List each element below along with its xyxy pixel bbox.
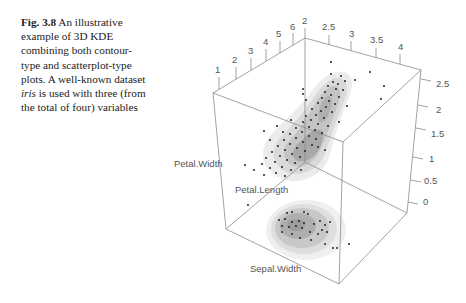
svg-text:0.5: 0.5 [424, 175, 437, 186]
axis-label-sepal-width: Sepal.Width [250, 263, 301, 274]
svg-text:1: 1 [215, 64, 220, 75]
svg-text:6: 6 [290, 21, 295, 32]
axis-sepal-width-labels: 2 2.5 3 3.5 4 [302, 15, 403, 52]
axis-label-petal-length: Petal.Length [235, 184, 288, 195]
svg-text:3: 3 [349, 28, 354, 39]
axis-petal-length-ticks [219, 33, 293, 89]
svg-text:1: 1 [429, 153, 434, 164]
svg-text:3: 3 [248, 45, 253, 56]
svg-text:2.5: 2.5 [322, 21, 335, 32]
svg-text:5: 5 [276, 28, 281, 39]
svg-text:4: 4 [398, 41, 403, 52]
svg-text:2.5: 2.5 [436, 78, 449, 89]
svg-text:1.5: 1.5 [431, 128, 444, 139]
svg-text:2: 2 [232, 54, 237, 65]
axis-label-petal-width: Petal.Width [174, 158, 223, 169]
kde-3d-plot: 1 2 3 4 5 6 2 2.5 3 3.5 4 2.5 2 1.5 1 0.… [0, 0, 466, 303]
kde-lower-cluster [266, 200, 346, 260]
axis-petal-width-labels: 2.5 2 1.5 1 0.5 0 [423, 78, 449, 207]
svg-text:2: 2 [302, 15, 307, 26]
svg-text:3.5: 3.5 [370, 34, 383, 45]
svg-text:0: 0 [423, 196, 428, 207]
svg-text:4: 4 [263, 36, 268, 47]
svg-text:2: 2 [436, 104, 441, 115]
axis-petal-length-labels: 1 2 3 4 5 6 [215, 21, 295, 75]
